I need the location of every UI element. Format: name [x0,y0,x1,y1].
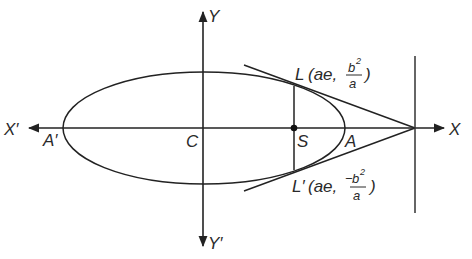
y-positive-label: Y [208,7,221,26]
svg-text:a: a [353,188,360,203]
point-L-prime-label: L′ (ae, − b 2 a ) [292,167,376,203]
ellipse-diagram: X X′ Y Y′ A′ C S A L (ae, b 2 a ) L′ (ae… [0,0,472,259]
x-positive-label: X [448,120,461,139]
focus-point [291,125,298,132]
svg-text:2: 2 [355,56,361,66]
vertex-left-label: A′ [42,131,58,150]
svg-text:2: 2 [359,167,365,177]
svg-text:a: a [349,76,356,91]
y-negative-label: Y′ [208,234,223,253]
svg-text:b: b [352,171,359,186]
focus-label: S [297,132,309,151]
svg-text:L′: L′ [292,177,305,196]
point-L-label: L (ae, b 2 a ) [295,56,371,91]
svg-text:b: b [348,60,355,75]
svg-text:): ) [363,65,371,84]
svg-text:L: L [295,65,304,84]
svg-text:(ae,: (ae, [308,177,337,196]
svg-text:): ) [368,177,376,196]
x-negative-label: X′ [3,120,19,139]
svg-text:(ae,: (ae, [308,65,337,84]
center-label: C [186,132,199,151]
vertex-right-label: A [344,132,356,151]
